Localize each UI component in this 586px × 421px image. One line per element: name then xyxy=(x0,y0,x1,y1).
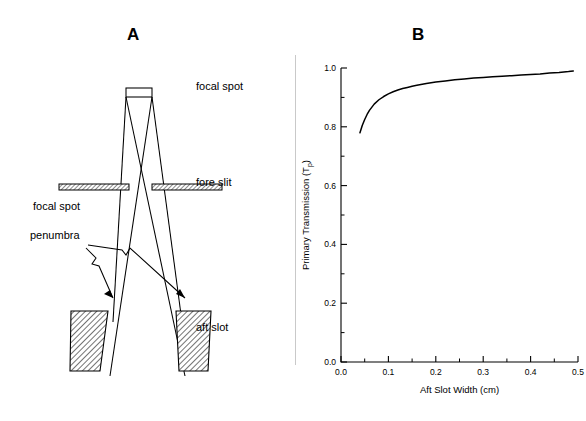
y-tick-label: 0.8 xyxy=(324,122,336,132)
label-fore-slit: fore slit xyxy=(196,176,231,188)
focal-spot-rect xyxy=(126,88,152,97)
primary-transmission-chart: 0.00.20.40.60.81.00.00.10.20.30.40.5Aft … xyxy=(293,0,586,421)
y-tick-label: 1.0 xyxy=(324,63,336,73)
chart-line-series xyxy=(360,71,573,133)
x-tick-label: 0.4 xyxy=(525,367,537,377)
x-tick-label: 0.3 xyxy=(477,367,489,377)
label-focal-spot-left: focal spot xyxy=(33,200,80,212)
label-leader-arrows xyxy=(86,245,185,298)
x-tick-label: 0.1 xyxy=(382,367,394,377)
panel-a: A xyxy=(0,0,293,421)
label-aft-slot: aft slot xyxy=(196,321,228,333)
chart-axes xyxy=(341,68,578,362)
x-tick-label: 0.0 xyxy=(335,367,347,377)
ray-penumbra-right xyxy=(152,97,182,322)
ray-right-source-to-left xyxy=(110,97,152,376)
y-tick-label: 0.4 xyxy=(324,239,336,249)
figure-root: A xyxy=(0,0,586,421)
label-focal-spot-right: focal spot xyxy=(196,80,243,92)
label-penumbra: penumbra xyxy=(30,229,80,241)
y-tick-label: 0.0 xyxy=(324,357,336,367)
x-tick-label: 0.5 xyxy=(572,367,584,377)
ray-penumbra-left xyxy=(113,97,126,322)
ray-left-source-to-right xyxy=(126,97,185,376)
y-axis-title: Primary Transmission (Tp) xyxy=(300,160,314,270)
aft-slot-collimator xyxy=(70,311,211,371)
x-tick-label: 0.2 xyxy=(430,367,442,377)
y-tick-label: 0.2 xyxy=(324,298,336,308)
panel-b: B 0.00.20.40.60.81.00.00.10.20.30.40.5Af… xyxy=(293,0,586,421)
y-tick-label: 0.6 xyxy=(324,181,336,191)
x-axis-title: Aft Slot Width (cm) xyxy=(420,384,499,395)
